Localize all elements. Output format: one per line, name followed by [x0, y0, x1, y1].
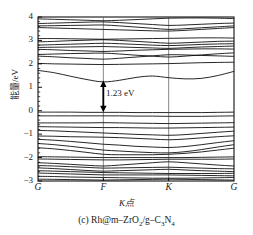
y-tick-label: 0	[17, 105, 33, 115]
y-tick-label: 1	[17, 81, 33, 91]
band-curve	[38, 116, 234, 117]
y-tick-label: 2	[17, 58, 33, 68]
y-tick-label: 3	[17, 34, 33, 44]
band-structure-figure: 能量/eV K点 1.23 eV (c) Rh@m–ZrO2/g–C3N4 43…	[0, 0, 253, 235]
band-curve	[38, 179, 234, 180]
caption-text: (c) Rh@m–ZrO2/g–C3N4	[78, 215, 175, 225]
x-tick-label: G	[30, 182, 46, 192]
y-tick-label: 4	[17, 11, 33, 21]
figure-caption: (c) Rh@m–ZrO2/g–C3N4	[0, 215, 253, 228]
x-tick-label: F	[95, 182, 111, 192]
band-curve	[38, 112, 234, 113]
y-tick-label: −2	[17, 152, 33, 162]
x-axis-label: K点	[0, 196, 253, 209]
x-tick-label: G	[226, 182, 242, 192]
x-tick-label: K	[161, 182, 177, 192]
band-gap-annotation-label: 1.23 eV	[106, 88, 135, 98]
y-tick-label: −1	[17, 128, 33, 138]
